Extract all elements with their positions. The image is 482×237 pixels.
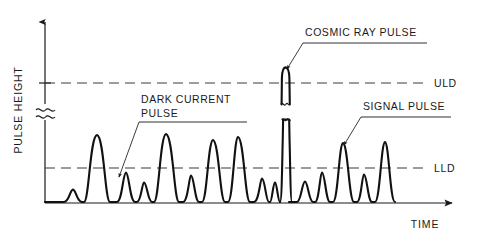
annotation-cosmic-ray-pulse: COSMIC RAY PULSE <box>287 26 427 69</box>
threshold-uld-group: ULD <box>45 77 457 89</box>
pulse-height-diagram: PULSE HEIGHT TIME ULD LLD <box>0 0 482 237</box>
signal-pulse-label: SIGNAL PULSE <box>363 100 445 112</box>
dark-current-pulse-leader <box>119 122 139 177</box>
y-axis-break-squiggle-lower <box>36 116 55 119</box>
cosmic-ray-pulse-lower <box>280 120 292 203</box>
cosmic-ray-pulse-label: COSMIC RAY PULSE <box>305 26 417 38</box>
annotation-signal-pulse: SIGNAL PULSE <box>344 100 451 145</box>
uld-label: ULD <box>434 77 457 89</box>
signal-pulse-leader <box>344 117 361 145</box>
cosmic-ray-pulse-upper <box>282 67 290 104</box>
lld-label: LLD <box>434 162 455 174</box>
cosmic-ray-pulse-leader <box>287 43 303 69</box>
y-axis-break-squiggle-upper <box>36 109 55 112</box>
pulse-trace-group <box>45 67 395 202</box>
annotation-dark-current-pulse: DARK CURRENT PULSE <box>119 93 247 177</box>
dark-current-pulse-label-line2: PULSE <box>141 107 178 119</box>
diagram-canvas: PULSE HEIGHT TIME ULD LLD <box>0 0 482 237</box>
dark-current-pulse-label-line1: DARK CURRENT <box>141 93 231 105</box>
y-axis-label: PULSE HEIGHT <box>12 66 24 153</box>
pulse-trace-right <box>289 142 395 202</box>
x-axis-label: TIME <box>411 218 439 230</box>
threshold-lld-group: LLD <box>45 162 455 174</box>
